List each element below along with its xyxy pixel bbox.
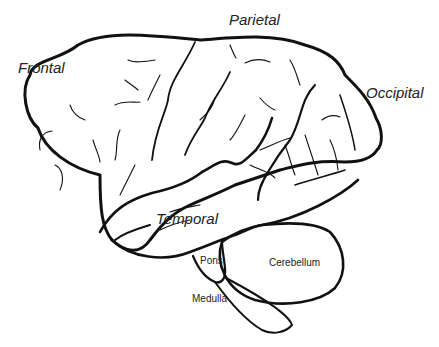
label-medulla: Medulla bbox=[192, 293, 227, 304]
label-frontal: Frontal bbox=[18, 59, 65, 76]
postcentral-sulcus bbox=[185, 72, 230, 155]
label-occipital: Occipital bbox=[366, 84, 424, 101]
medulla-outline bbox=[215, 278, 292, 333]
label-cerebellum: Cerebellum bbox=[269, 257, 320, 268]
brain-diagram: Frontal Parietal Occipital Temporal Cere… bbox=[0, 0, 439, 347]
central-sulcus bbox=[152, 42, 195, 160]
occipital-inner bbox=[340, 95, 355, 150]
label-pons: Pons bbox=[200, 255, 223, 266]
parieto-occipital-sulcus bbox=[258, 85, 315, 200]
gyri-details bbox=[40, 45, 341, 230]
temporal-lower-edge bbox=[112, 180, 358, 257]
occipital-fold bbox=[295, 170, 345, 185]
label-parietal: Parietal bbox=[229, 11, 280, 28]
label-temporal: Temporal bbox=[156, 210, 218, 227]
temporal-upper-edge bbox=[115, 225, 150, 240]
